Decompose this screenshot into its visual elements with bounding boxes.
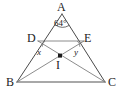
vertex-label-B: B [6,76,14,88]
vertex-label-A: A [57,1,66,13]
angle-label-a: 64° [54,19,67,28]
angle-label-y: y [74,48,78,57]
vertex-label-E: E [84,32,91,44]
vertex-label-C: C [108,76,116,88]
vertex-label-I: I [56,59,60,71]
angle-label-x: x [37,48,41,57]
point-I-marker [58,54,62,58]
geometry-canvas [0,0,122,103]
geometry-figure: A B C D E I 64° x y [0,0,122,103]
vertex-label-D: D [27,32,36,44]
angle-arc-x [42,41,45,47]
cevian-CD-line [38,41,105,82]
side-AC-line [62,14,105,82]
